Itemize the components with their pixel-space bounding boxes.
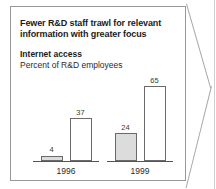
bar-group-1996: 4 37 1996 (30, 76, 102, 176)
page-title: Fewer R&D staff trawl for relevant infor… (20, 18, 180, 40)
bar-group-1999-plot: 24 65 (104, 81, 176, 161)
x-axis-tick-1999: 1999 (104, 166, 176, 176)
bar-group-1999-baseline (107, 161, 173, 163)
chart-title: Internet access (20, 49, 179, 59)
bar-rect-filled (115, 133, 137, 160)
bar-value-label: 24 (121, 123, 129, 132)
scan-curl-artifact-top (186, 4, 211, 89)
bar-item-1999-filled: 24 (115, 123, 137, 161)
bar-value-label: 65 (150, 76, 158, 85)
bar-value-label: 37 (76, 108, 84, 117)
bar-item-1999-open: 65 (144, 76, 166, 161)
bar-item-1996-filled: 4 (41, 145, 63, 160)
bar-group-1996-baseline (33, 161, 99, 163)
bar-rect-open (144, 86, 166, 160)
scan-page-edge-artifact (214, 0, 215, 189)
x-axis-tick-1996: 1996 (30, 166, 102, 176)
page-canvas: Fewer R&D staff trawl for relevant infor… (0, 0, 216, 189)
bar-rect-filled (41, 156, 63, 161)
bar-chart: 4 37 1996 (20, 76, 182, 176)
bar-item-1996-open: 37 (70, 108, 92, 161)
bar-chart-groups: 4 37 1996 (20, 76, 182, 176)
bar-rect-open (70, 118, 92, 160)
chart-subtitle: Percent of R&D employees (20, 60, 179, 70)
bar-group-1999: 24 65 1999 (104, 76, 176, 176)
bar-group-1996-plot: 4 37 (30, 81, 102, 161)
chart-card: Fewer R&D staff trawl for relevant infor… (10, 6, 186, 181)
bar-value-label: 4 (49, 145, 53, 154)
scan-curl-artifact-bottom (186, 86, 212, 188)
chart-card-content: Fewer R&D staff trawl for relevant infor… (20, 18, 179, 176)
